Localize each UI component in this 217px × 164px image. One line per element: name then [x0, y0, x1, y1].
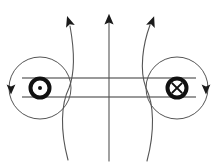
right-wire-symbol	[168, 79, 187, 98]
left-wire-symbol	[31, 79, 50, 98]
figure-root: Magnetic field lines of two antiparallel…	[0, 0, 217, 164]
current-out-of-page-dot-icon	[38, 86, 42, 90]
field-line-diagram-canvas	[0, 0, 217, 164]
